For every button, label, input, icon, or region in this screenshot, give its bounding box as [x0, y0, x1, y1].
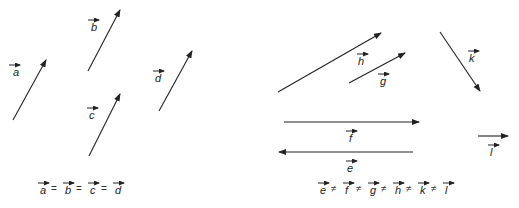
equation-term-k: k — [418, 183, 429, 196]
vector-line — [159, 51, 192, 111]
equation-term-g: g — [368, 183, 379, 196]
equation-operator: ≠ — [406, 183, 412, 194]
vector-label: k — [420, 184, 426, 196]
vector-label-a: a — [9, 65, 20, 78]
vector-h: h — [278, 33, 381, 92]
vector-label: h — [395, 184, 401, 196]
equation-operator: ≠ — [356, 183, 362, 194]
equations-group: a=b=c=de≠f≠g≠h≠k≠l — [38, 183, 454, 196]
vector-label: h — [358, 55, 364, 67]
equation-term-d: d — [113, 183, 124, 196]
vector-label: e — [320, 184, 326, 196]
vector-label: g — [380, 75, 387, 87]
equation-operator: ≠ — [381, 183, 387, 194]
vector-label-l: l — [488, 145, 499, 158]
vector-label: g — [370, 184, 377, 196]
vector-label-k: k — [468, 51, 479, 64]
vector-label: b — [91, 21, 97, 33]
equation-operator: ≠ — [431, 183, 437, 194]
vectors-group: abcdhgkfel — [9, 10, 508, 174]
equation-term-c: c — [88, 183, 99, 196]
vector-label: f — [349, 132, 353, 144]
vector-e: e — [279, 152, 413, 174]
vector-b: b — [88, 10, 120, 71]
vector-a: a — [9, 60, 46, 120]
equal-vectors-equation: a=b=c=d — [38, 183, 124, 196]
equation-operator: ≠ — [331, 183, 337, 194]
vector-label-h: h — [357, 54, 368, 67]
equation-term-l: l — [443, 183, 454, 196]
equation-term-a: a — [38, 183, 49, 196]
vector-l: l — [478, 136, 508, 158]
equation-operator: = — [76, 183, 82, 194]
vector-equality-diagram: abcdhgkfel a=b=c=de≠f≠g≠h≠k≠l — [0, 0, 519, 208]
vector-label-e: e — [346, 161, 357, 174]
equation-operator: = — [51, 183, 57, 194]
vector-f: f — [284, 122, 419, 144]
vector-label: e — [347, 162, 353, 174]
vector-label: c — [89, 109, 95, 121]
unequal-vectors-equation: e≠f≠g≠h≠k≠l — [318, 183, 454, 196]
equation-term-e: e — [318, 183, 329, 196]
vector-label: d — [155, 72, 162, 84]
vector-line — [89, 94, 120, 156]
vector-label: l — [445, 184, 448, 196]
vector-line — [88, 10, 120, 71]
vector-label: l — [490, 146, 493, 158]
vector-c: c — [87, 94, 120, 156]
vector-label-f: f — [346, 131, 357, 144]
vector-d: d — [153, 51, 192, 111]
vector-label: d — [115, 184, 122, 196]
equation-term-f: f — [343, 183, 354, 196]
equation-term-h: h — [393, 183, 404, 196]
vector-label: c — [90, 184, 96, 196]
vector-label-g: g — [378, 74, 389, 87]
vector-label: a — [40, 184, 46, 196]
vector-k: k — [440, 32, 480, 91]
vector-line — [278, 33, 381, 92]
vector-label: k — [469, 52, 475, 64]
vector-label: a — [13, 66, 19, 78]
diagram-svg: abcdhgkfel a=b=c=de≠f≠g≠h≠k≠l — [0, 0, 519, 208]
equation-operator: = — [101, 183, 107, 194]
equation-term-b: b — [63, 183, 74, 196]
vector-label: b — [65, 184, 71, 196]
vector-label-b: b — [88, 20, 99, 33]
vector-label-c: c — [87, 108, 98, 121]
vector-label: f — [345, 184, 349, 196]
vector-label-d: d — [153, 71, 164, 84]
